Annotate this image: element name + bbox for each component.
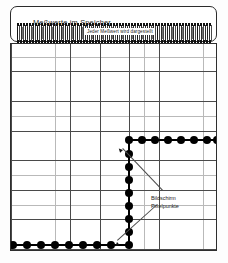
pixel-dot xyxy=(203,136,211,144)
pixel-dot xyxy=(37,241,45,249)
pixel-dot xyxy=(51,241,59,249)
pixel-dot xyxy=(125,176,133,184)
pixel-dot xyxy=(177,136,185,144)
figure-page: Meßwerte im Speicher Jeder Meßwert wird … xyxy=(0,0,228,263)
pixel-dot xyxy=(65,241,73,249)
pixel-dot xyxy=(125,241,133,249)
pixel-grid: Bildschirm Pixelpunkte xyxy=(10,43,217,251)
pixel-dot xyxy=(125,136,133,144)
grid-major-lines xyxy=(11,44,216,250)
pixel-dot xyxy=(93,241,101,249)
waveform-rail-top xyxy=(17,23,212,26)
annotation-label: Bildschirm Pixelpunkte xyxy=(151,194,179,210)
pixel-dot xyxy=(125,189,133,197)
pixel-dot xyxy=(138,136,146,144)
pixel-dot xyxy=(23,241,31,249)
pixel-dot xyxy=(151,136,159,144)
memory-waveform-band: Jeder Meßwert wird dargestellt xyxy=(17,23,212,43)
pixel-dot xyxy=(125,163,133,171)
pixel-dot xyxy=(79,241,87,249)
pixel-dot xyxy=(164,136,172,144)
pixel-dot xyxy=(213,136,217,144)
pixel-dot xyxy=(125,202,133,210)
pixel-dot xyxy=(190,136,198,144)
annotation-line-2: Pixelpunkte xyxy=(151,202,179,210)
pixel-dot xyxy=(125,215,133,223)
waveform-caption: Jeder Meßwert wird dargestellt xyxy=(85,28,155,35)
annotation-line-1: Bildschirm xyxy=(151,194,179,202)
